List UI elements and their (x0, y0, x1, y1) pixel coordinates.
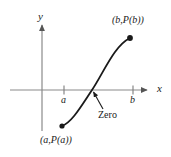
tick-label-a: a (61, 95, 66, 105)
figure-container: y x a b (b,P(b)) (a,P(a)) Zero (0, 0, 171, 157)
endpoint-dot-b (127, 35, 133, 41)
tick-label-b: b (130, 95, 135, 105)
y-axis-label: y (38, 11, 43, 22)
graph-canvas (0, 0, 171, 157)
endpoint-dot-a (59, 123, 64, 128)
polynomial-curve (62, 38, 130, 126)
zero-annotation-label: Zero (98, 110, 117, 120)
x-axis-label: x (157, 83, 162, 94)
point-label-b: (b,P(b)) (112, 15, 144, 25)
point-label-a: (a,P(a)) (40, 135, 72, 145)
zero-leader-line (94, 92, 104, 109)
